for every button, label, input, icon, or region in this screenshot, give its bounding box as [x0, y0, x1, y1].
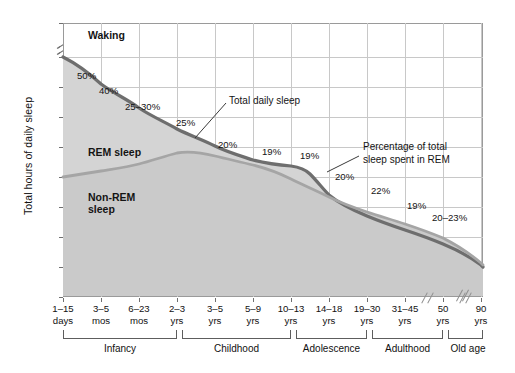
rem-percentage-callout-line2: sleep spent in REM: [363, 154, 450, 167]
pct-label-11: 20–23%: [432, 212, 467, 223]
stage-bracket-childhood: [182, 330, 291, 339]
x-tickmark: [481, 298, 482, 302]
x-tickmark: [63, 298, 64, 302]
x-tickmark: [177, 298, 178, 302]
pct-label-4: 25%: [176, 117, 195, 128]
pct-label-6: 19%: [262, 146, 281, 157]
total-daily-sleep-callout: Total daily sleep: [229, 95, 300, 108]
stage-label-infancy: Infancy: [63, 343, 177, 354]
band-label-non-rem-line1: Non-REM: [88, 191, 135, 203]
stage-bracket-old-age: [448, 330, 483, 339]
x-label-12-top: 90: [453, 303, 509, 315]
x-label-12-bottom: yrs: [453, 315, 509, 327]
stage-bracket-adolescence: [296, 330, 367, 339]
plot-area: Waking REM sleep Non-REM sleep 50% 40% 2…: [63, 23, 483, 297]
y-axis-title: Total hours of daily sleep: [22, 36, 34, 276]
x-tickmark: [443, 298, 444, 302]
stage-label-adulthood: Adulthood: [372, 343, 443, 354]
x-tickmark: [367, 298, 368, 302]
stage-label-childhood: Childhood: [182, 343, 291, 354]
x-tickmark: [405, 298, 406, 302]
x-tickmark: [139, 298, 140, 302]
band-label-rem: REM sleep: [88, 146, 141, 158]
x-label-12: 90 yrs: [453, 303, 509, 326]
pct-label-3: 25–30%: [125, 101, 160, 112]
pct-label-5: 20%: [218, 139, 237, 150]
pct-label-8: 20%: [335, 171, 354, 182]
x-tickmark: [253, 298, 254, 302]
band-label-waking: Waking: [88, 29, 125, 41]
band-label-non-rem-line2: sleep: [88, 203, 115, 215]
rem-percentage-callout-line1: Percentage of total: [363, 141, 450, 154]
stage-bracket-infancy: [63, 330, 177, 339]
stage-label-adolescence: Adolescence: [288, 343, 375, 354]
pct-label-7: 19%: [300, 150, 319, 161]
stage-label-old-age: Old age: [443, 343, 493, 354]
pct-label-9: 22%: [371, 185, 390, 196]
stage-bracket-adulthood: [372, 330, 443, 339]
rem-callout-line: [327, 156, 359, 172]
rem-percentage-callout: Percentage of total sleep spent in REM: [363, 141, 450, 166]
x-tickmark: [101, 298, 102, 302]
pct-label-1: 50%: [77, 70, 96, 81]
total-sleep-callout-line: [195, 103, 226, 138]
sleep-chart-figure: Total hours of daily sleep 24 16 14 12 1…: [0, 0, 515, 373]
x-tickmark: [215, 298, 216, 302]
pct-label-10: 19%: [407, 200, 426, 211]
x-tickmark: [291, 298, 292, 302]
pct-label-2: 40%: [99, 85, 118, 96]
non-rem-area: [63, 152, 483, 296]
x-tickmark: [329, 298, 330, 302]
